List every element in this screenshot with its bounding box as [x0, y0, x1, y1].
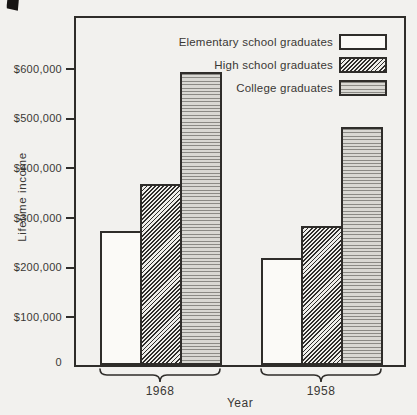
y-tick-mark: [66, 316, 74, 318]
legend-row: Elementary school graduates: [179, 34, 387, 50]
brace-1958: [261, 369, 381, 382]
legend-label: College graduates: [236, 82, 333, 94]
y-tick-label: 0: [0, 356, 62, 369]
legend-swatch-horizontal-lines: [339, 80, 387, 96]
bar-horizontal-lines-1968: [180, 72, 222, 365]
y-tick-label: $400,000: [0, 162, 62, 175]
y-tick-mark: [66, 217, 74, 219]
legend-swatch-diagonal-hatch: [339, 57, 387, 73]
y-tick-label: $500,000: [0, 112, 62, 125]
x-axis-title: Year: [210, 396, 270, 410]
y-tick-mark: [66, 118, 74, 120]
bar-diagonal-hatch-1958: [301, 226, 343, 365]
ink-blot-mark: [5, 0, 21, 13]
category-label-1968: 1968: [125, 384, 195, 398]
bar-plain-1968: [100, 231, 142, 365]
bar-plain-1958: [261, 258, 303, 365]
legend-label: High school graduates: [214, 59, 333, 71]
y-tick-mark: [66, 68, 74, 70]
brace-1968: [100, 369, 220, 382]
y-tick-label: $300,000: [0, 212, 62, 225]
legend-row: High school graduates: [179, 57, 387, 73]
category-braces: [74, 368, 406, 385]
legend-label: Elementary school graduates: [179, 36, 333, 48]
bar-chart-figure: Lifetime income 0$100,000$200,000$300,00…: [0, 0, 417, 415]
y-tick-label: $200,000: [0, 261, 62, 274]
bar-diagonal-hatch-1968: [140, 184, 182, 365]
category-label-1958: 1958: [286, 384, 356, 398]
bar-horizontal-lines-1958: [341, 127, 383, 365]
y-tick-label: $100,000: [0, 311, 62, 324]
y-tick-mark: [66, 167, 74, 169]
y-tick-mark: [66, 267, 74, 269]
y-tick-label: $600,000: [0, 63, 62, 76]
legend-swatch-plain: [339, 34, 387, 50]
